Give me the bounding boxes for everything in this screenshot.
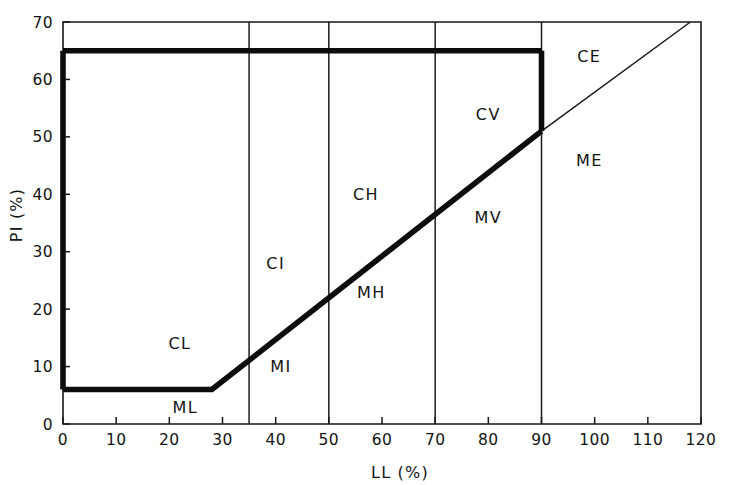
zone-label-me: ME — [576, 151, 603, 170]
y-tick-label-60: 60 — [32, 71, 53, 89]
y-axis-title: PI (%) — [7, 188, 26, 242]
x-tick-label-110: 110 — [632, 431, 663, 449]
zone-label-cv: CV — [476, 105, 501, 124]
x-tick-label-90: 90 — [531, 431, 552, 449]
y-tick-label-40: 40 — [32, 186, 53, 204]
x-tick-label-120: 120 — [686, 431, 717, 449]
zone-label-ci: CI — [266, 254, 285, 273]
y-tick-label-10: 10 — [32, 358, 53, 376]
y-tick-label-30: 30 — [32, 243, 53, 261]
x-tick-label-100: 100 — [579, 431, 610, 449]
y-tick-label-50: 50 — [32, 128, 53, 146]
y-tick-label-20: 20 — [32, 301, 53, 319]
x-tick-label-30: 30 — [212, 431, 233, 449]
casagrande-chart-svg: 0102030405060708090100110120 01020304050… — [0, 0, 740, 485]
x-tick-label-10: 10 — [106, 431, 127, 449]
y-tick-label-0: 0 — [43, 416, 53, 434]
zone-label-mi: MI — [270, 357, 291, 376]
x-tick-label-0: 0 — [58, 431, 68, 449]
zone-label-ch: CH — [353, 185, 379, 204]
zone-label-cl: CL — [169, 334, 192, 353]
x-tick-label-60: 60 — [372, 431, 393, 449]
y-tick-label-70: 70 — [32, 14, 53, 32]
x-tick-label-40: 40 — [265, 431, 286, 449]
x-tick-label-80: 80 — [478, 431, 499, 449]
zone-label-ce: CE — [577, 47, 601, 66]
chart-background — [0, 0, 740, 485]
zone-label-mh: MH — [357, 283, 386, 302]
plasticity-chart: 0102030405060708090100110120 01020304050… — [0, 0, 740, 485]
zone-label-mv: MV — [475, 208, 503, 227]
x-axis-title: LL (%) — [371, 463, 429, 482]
zone-label-ml: ML — [173, 398, 199, 417]
x-tick-label-20: 20 — [159, 431, 180, 449]
x-tick-label-50: 50 — [319, 431, 340, 449]
x-tick-label-70: 70 — [425, 431, 446, 449]
